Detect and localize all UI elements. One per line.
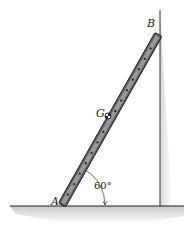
label-b: B xyxy=(147,17,155,30)
label-a: A xyxy=(51,195,59,208)
wall xyxy=(160,10,172,206)
center-of-gravity-icon xyxy=(105,113,111,119)
angle-label: 60° xyxy=(94,180,112,191)
ground xyxy=(10,206,184,224)
label-g: G xyxy=(96,107,105,120)
